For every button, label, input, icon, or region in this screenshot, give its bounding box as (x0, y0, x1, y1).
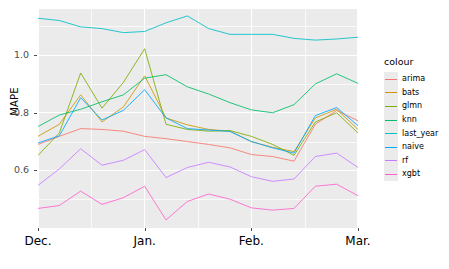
legend-key-icon (384, 86, 398, 100)
y-tick-label: 0.6 (0, 164, 29, 175)
legend-item-label: xgbt (402, 169, 420, 178)
legend-item-arima[interactable]: arima (384, 72, 448, 86)
legend-key-icon (384, 99, 398, 113)
legend-item-knn[interactable]: knn (384, 113, 448, 127)
legend-item-label: naive (402, 142, 424, 151)
y-tick-mark (34, 113, 37, 114)
legend-item-bats[interactable]: bats (384, 86, 448, 100)
legend-key-icon (384, 154, 398, 168)
legend-key-icon (384, 167, 398, 181)
x-tick-mark (145, 228, 146, 231)
legend-item-glmn[interactable]: glmn (384, 99, 448, 113)
line-naive (38, 90, 358, 153)
legend-item-label: last_year (402, 129, 438, 138)
y-axis-title: MAPE (9, 72, 20, 132)
x-tick-label: Dec. (8, 234, 68, 248)
series-lines (38, 9, 358, 228)
y-tick-mark (34, 55, 37, 56)
x-tick-label: Feb. (221, 234, 281, 248)
line-bats (38, 76, 358, 152)
legend-item-label: bats (402, 88, 419, 97)
legend-key-icon (384, 113, 398, 127)
legend-item-rf[interactable]: rf (384, 154, 448, 168)
legend-item-label: arima (402, 74, 425, 83)
legend-item-naive[interactable]: naive (384, 140, 448, 154)
x-tick-mark (358, 228, 359, 231)
x-tick-mark (251, 228, 252, 231)
legend-item-label: glmn (402, 101, 422, 110)
legend-item-label: knn (402, 115, 417, 124)
legend-key-icon (384, 72, 398, 86)
legend-key-icon (384, 126, 398, 140)
y-tick-label: 1.0 (0, 49, 29, 60)
legend-item-last_year[interactable]: last_year (384, 126, 448, 140)
x-tick-label: Mar. (328, 234, 388, 248)
legend: colour arimabatsglmnknnlast_yearnaiverfx… (384, 56, 448, 181)
line-arima (38, 110, 358, 161)
chart-root: MAPE 0.60.81.0 Dec.Jan.Feb.Mar. colour a… (0, 0, 449, 269)
line-xgbt (38, 184, 358, 220)
legend-item-label: rf (402, 156, 408, 165)
x-tick-label: Jan. (115, 234, 175, 248)
legend-title: colour (384, 56, 448, 67)
legend-items: arimabatsglmnknnlast_yearnaiverfxgbt (384, 72, 448, 181)
y-tick-mark (34, 170, 37, 171)
legend-item-xgbt[interactable]: xgbt (384, 167, 448, 181)
y-tick-label: 0.8 (0, 107, 29, 118)
plot-panel (38, 9, 358, 228)
legend-key-icon (384, 140, 398, 154)
x-tick-mark (38, 228, 39, 231)
line-last_year (38, 16, 358, 40)
line-rf (38, 149, 358, 186)
